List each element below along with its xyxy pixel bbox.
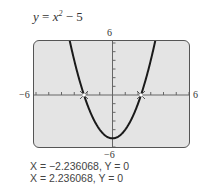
result-line-1: X = −2.236068, Y = 0: [30, 160, 129, 172]
graph-plot: [34, 41, 190, 148]
ymin-label: −6: [104, 149, 115, 160]
equation-equals: =: [39, 9, 53, 24]
equation-rest: − 5: [62, 9, 82, 24]
graph-screen: [33, 40, 190, 148]
zero-marker-dot: [140, 94, 143, 97]
zero-marker-dot: [82, 94, 85, 97]
result-line-2: X = 2.236068, Y = 0: [30, 172, 123, 184]
ymax-label: 6: [107, 27, 112, 38]
xmax-label: 6: [193, 89, 198, 100]
equation-label: y = x2 − 5: [33, 9, 83, 25]
xmin-label: −6: [19, 89, 30, 100]
